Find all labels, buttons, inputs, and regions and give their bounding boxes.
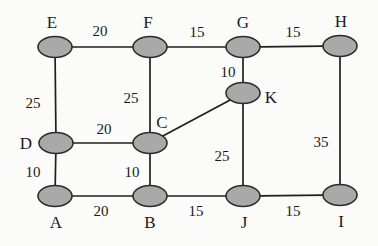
edge-weight-c-b: 10 xyxy=(125,165,140,180)
graph-node-j[interactable] xyxy=(226,186,260,207)
node-label-e: E xyxy=(47,14,57,31)
node-label-b: B xyxy=(144,214,155,231)
edge-weight-e-f: 20 xyxy=(93,24,108,39)
node-label-j: J xyxy=(241,214,248,231)
node-label-d: D xyxy=(20,135,32,152)
edge-weight-j-i: 15 xyxy=(286,204,301,219)
node-label-h: H xyxy=(335,13,347,30)
edge-weight-g-h: 15 xyxy=(286,25,301,40)
node-label-c: C xyxy=(156,114,167,131)
weighted-graph-figure: EFGHKDCABJI2015152525103520101025201515 xyxy=(0,0,378,246)
graph-node-f[interactable] xyxy=(133,37,167,58)
graph-node-a[interactable] xyxy=(38,186,72,207)
graph-node-d[interactable] xyxy=(39,133,73,154)
graph-edge-e-d xyxy=(55,57,56,132)
graph-edge-c-k xyxy=(163,100,230,136)
graph-node-c[interactable] xyxy=(133,133,167,154)
edge-weight-b-j: 15 xyxy=(189,204,204,219)
node-layer xyxy=(38,36,357,207)
edge-weight-a-b: 20 xyxy=(94,204,109,219)
edge-weight-f-c: 25 xyxy=(124,91,139,106)
edge-weight-d-c: 20 xyxy=(97,122,112,137)
edge-weight-h-i: 35 xyxy=(314,135,329,150)
graph-edge-d-a xyxy=(55,153,56,185)
node-label-k: K xyxy=(265,89,277,106)
node-label-a: A xyxy=(50,214,62,231)
graph-node-k[interactable] xyxy=(226,83,260,104)
graph-edge-g-h xyxy=(260,46,323,47)
graph-node-i[interactable] xyxy=(323,185,357,206)
graph-node-g[interactable] xyxy=(226,37,260,58)
node-label-f: F xyxy=(143,14,152,31)
edge-weight-g-k: 10 xyxy=(221,65,236,80)
edge-weight-k-j: 25 xyxy=(215,149,230,164)
edge-weight-d-a: 10 xyxy=(26,165,41,180)
graph-node-b[interactable] xyxy=(133,186,167,207)
graph-edge-j-i xyxy=(260,195,323,196)
node-label-i: I xyxy=(338,213,344,230)
graph-node-e[interactable] xyxy=(38,37,72,58)
graph-node-h[interactable] xyxy=(323,36,357,57)
edge-weight-f-g: 15 xyxy=(190,25,205,40)
edge-weight-e-d: 25 xyxy=(26,96,41,111)
node-label-g: G xyxy=(237,14,249,31)
